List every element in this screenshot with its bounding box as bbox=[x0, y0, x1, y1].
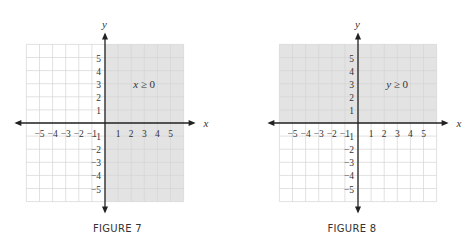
y-tick-label: −1 bbox=[344, 132, 354, 142]
x-tick-label: −3 bbox=[61, 129, 71, 139]
y-tick-label: −3 bbox=[344, 158, 354, 168]
x-tick-label: 5 bbox=[421, 129, 426, 139]
arrow-down-icon bbox=[355, 207, 361, 214]
figure-7-caption: FIGURE 7 bbox=[0, 223, 235, 234]
x-axis-label: x bbox=[203, 117, 209, 129]
arrow-left-icon bbox=[267, 120, 274, 126]
x-tick-label: 1 bbox=[369, 129, 374, 139]
y-tick-label: −5 bbox=[91, 185, 101, 195]
arrow-up-icon bbox=[102, 32, 108, 39]
y-tick-label: 3 bbox=[349, 80, 354, 90]
x-tick-label: −4 bbox=[48, 129, 58, 139]
x-tick-label: 2 bbox=[382, 129, 387, 139]
arrow-down-icon bbox=[102, 207, 108, 214]
y-tick-label: 3 bbox=[96, 80, 101, 90]
x-axis-label: x bbox=[456, 117, 462, 129]
y-axis-label: y bbox=[101, 18, 107, 30]
y-tick-label: −2 bbox=[91, 145, 101, 155]
figure-8: xy−5−4−3−2−11234554321−1−2−3−4−5y ≥ 0 FI… bbox=[235, 0, 469, 245]
inequality-label: y ≥ 0 bbox=[385, 78, 408, 90]
x-tick-label: 3 bbox=[395, 129, 400, 139]
x-tick-label: −2 bbox=[327, 129, 337, 139]
y-tick-label: −2 bbox=[344, 145, 354, 155]
x-tick-label: −5 bbox=[34, 129, 44, 139]
figure-7-graph: xy−5−4−3−2−11234554321−1−2−3−4−5x ≥ 0 bbox=[0, 0, 235, 245]
x-tick-label: −2 bbox=[74, 129, 84, 139]
x-tick-label: −3 bbox=[314, 129, 324, 139]
x-tick-label: 5 bbox=[168, 129, 173, 139]
x-tick-label: 4 bbox=[155, 129, 160, 139]
y-tick-label: −3 bbox=[91, 158, 101, 168]
inequality-label: x ≥ 0 bbox=[132, 78, 155, 90]
x-tick-label: 2 bbox=[129, 129, 134, 139]
arrow-right-icon bbox=[189, 120, 196, 126]
arrow-up-icon bbox=[355, 32, 361, 39]
x-tick-label: −4 bbox=[301, 129, 311, 139]
y-tick-label: 1 bbox=[349, 106, 354, 116]
y-tick-label: 1 bbox=[96, 106, 101, 116]
y-tick-label: −4 bbox=[344, 171, 354, 181]
y-tick-label: −5 bbox=[344, 185, 354, 195]
y-tick-label: 4 bbox=[349, 67, 354, 77]
y-tick-label: −1 bbox=[91, 132, 101, 142]
y-tick-label: 5 bbox=[96, 54, 101, 64]
figure-8-caption: FIGURE 8 bbox=[235, 223, 469, 234]
x-tick-label: −5 bbox=[287, 129, 297, 139]
y-tick-label: 4 bbox=[96, 67, 101, 77]
x-tick-label: 1 bbox=[116, 129, 121, 139]
x-tick-label: 3 bbox=[142, 129, 147, 139]
x-tick-label: 4 bbox=[408, 129, 413, 139]
y-axis-label: y bbox=[354, 18, 360, 30]
arrow-right-icon bbox=[442, 120, 449, 126]
figure-8-graph: xy−5−4−3−2−11234554321−1−2−3−4−5y ≥ 0 bbox=[235, 0, 469, 245]
y-tick-label: −4 bbox=[91, 171, 101, 181]
y-tick-label: 2 bbox=[96, 93, 101, 103]
arrow-left-icon bbox=[14, 120, 21, 126]
y-tick-label: 2 bbox=[349, 93, 354, 103]
y-tick-label: 5 bbox=[349, 54, 354, 64]
figure-7: xy−5−4−3−2−11234554321−1−2−3−4−5x ≥ 0 FI… bbox=[0, 0, 235, 245]
